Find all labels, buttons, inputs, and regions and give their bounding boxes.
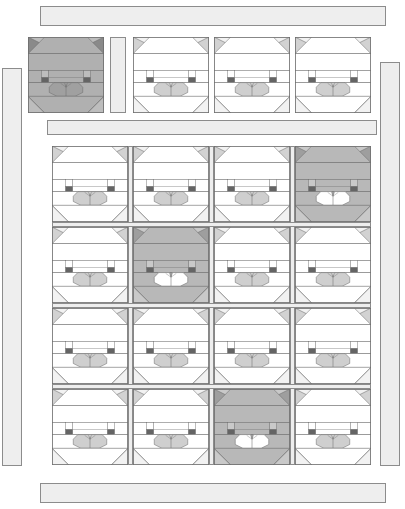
horizontal-sashing-1 bbox=[52, 222, 371, 227]
cat-block-r2-c2[interactable] bbox=[214, 308, 290, 384]
cat-block-top-cat-2[interactable] bbox=[214, 37, 290, 113]
cat-block-r2-c0[interactable] bbox=[52, 308, 128, 384]
sample-divider-strip bbox=[110, 37, 126, 113]
cat-block-top-cat-3[interactable] bbox=[295, 37, 371, 113]
cat-block-r1-c2[interactable] bbox=[214, 227, 290, 303]
top-border-strip bbox=[40, 6, 386, 26]
quilt-canvas bbox=[0, 0, 405, 509]
cat-block-r1-c3[interactable] bbox=[295, 227, 371, 303]
horizontal-sashing-2 bbox=[52, 303, 371, 308]
cat-block-r3-c3[interactable] bbox=[295, 389, 371, 465]
cat-block-r2-c3[interactable] bbox=[295, 308, 371, 384]
cat-block-top-cat-1[interactable] bbox=[133, 37, 209, 113]
bottom-border-strip bbox=[40, 483, 386, 503]
cat-block-r1-c1[interactable] bbox=[133, 227, 209, 303]
cat-block-r0-c1[interactable] bbox=[133, 146, 209, 222]
cat-block-r1-c0[interactable] bbox=[52, 227, 128, 303]
cat-block-r3-c0[interactable] bbox=[52, 389, 128, 465]
cat-block-r3-c1[interactable] bbox=[133, 389, 209, 465]
cat-block-r0-c2[interactable] bbox=[214, 146, 290, 222]
cat-block-sample-cat[interactable] bbox=[28, 37, 104, 113]
left-border-strip bbox=[2, 68, 22, 466]
right-border-strip bbox=[380, 62, 400, 466]
cat-block-r0-c3[interactable] bbox=[295, 146, 371, 222]
cat-block-r0-c0[interactable] bbox=[52, 146, 128, 222]
horizontal-sashing-3 bbox=[52, 384, 371, 389]
inner-top-sashing bbox=[47, 120, 377, 135]
cat-block-r2-c1[interactable] bbox=[133, 308, 209, 384]
cat-block-r3-c2[interactable] bbox=[214, 389, 290, 465]
